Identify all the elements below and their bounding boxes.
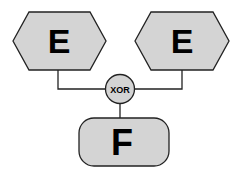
edge-e-left-xor: [58, 70, 106, 89]
node-xor[interactable]: XOR: [106, 75, 135, 104]
node-label: XOR: [110, 85, 130, 95]
node-label: F: [111, 122, 133, 163]
node-label: E: [48, 22, 71, 60]
node-label: E: [171, 22, 194, 60]
node-f[interactable]: F: [79, 118, 169, 166]
edge-e-right-xor: [134, 70, 182, 89]
diagram-canvas: E E XOR F: [0, 0, 240, 174]
node-e-right[interactable]: E: [135, 12, 229, 70]
node-e-left[interactable]: E: [13, 12, 106, 70]
